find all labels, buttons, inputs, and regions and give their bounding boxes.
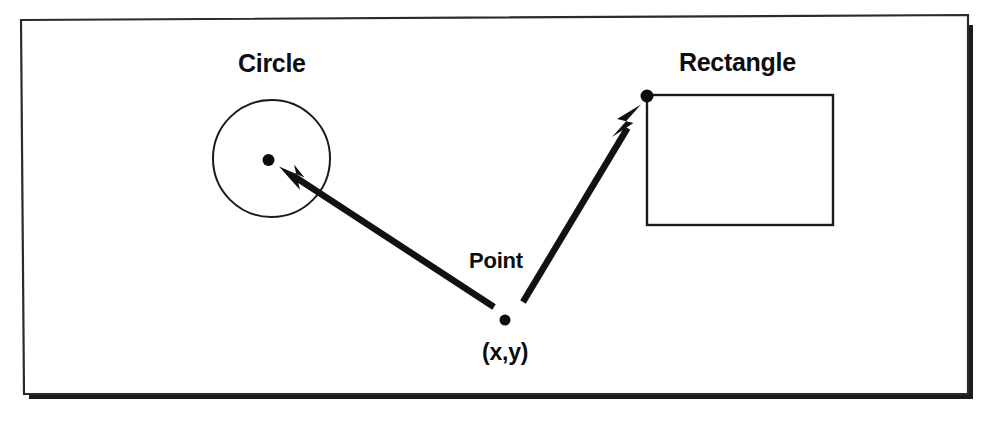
rectangle-outline	[647, 95, 833, 225]
origin-point	[500, 315, 511, 326]
arrow-to-rectangle	[523, 105, 641, 303]
diagram-canvas: Circle Rectangle Point (x,y)	[0, 0, 989, 422]
circle-center-point	[263, 154, 275, 166]
frame-border	[21, 15, 968, 394]
coordinate-label: (x,y)	[482, 339, 528, 365]
rectangle-shape-group	[647, 95, 833, 225]
arrow-to-circle	[279, 165, 494, 308]
rectangle-anchor-point	[641, 90, 654, 103]
arrow-to-rectangle-shaft	[523, 128, 628, 302]
rectangle-label: Rectangle	[679, 48, 796, 76]
diagram-svg: Circle Rectangle Point (x,y)	[0, 0, 989, 422]
arrow-to-circle-shaft	[294, 176, 495, 307]
circle-label: Circle	[238, 49, 306, 77]
point-label: Point	[469, 248, 524, 273]
